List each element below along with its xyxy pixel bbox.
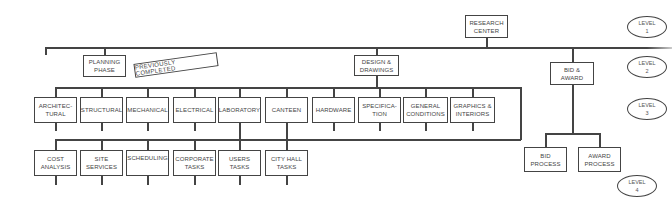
drop [55,139,57,150]
connector-bid [572,47,574,62]
node-award-process: AWARD PROCESS [578,147,621,172]
drop [194,87,196,97]
node-electrical: ELECTRICAL [173,97,216,123]
node-bid-award: BID & AWARD [550,62,594,85]
stub [147,122,149,131]
node-research-center: RESEARCH CENTER [465,15,508,38]
connector-design-down [376,75,378,87]
node-design-drawings: DESIGN & DRAWINGS [354,55,399,76]
stub [194,175,196,185]
drop [147,87,149,97]
level-2-marker: LEVEL 2 [627,56,667,78]
stub [472,122,474,131]
stub [286,122,288,139]
bid-bus [545,133,600,135]
node-corporate-tasks: CORPORATE TASKS [173,150,216,176]
node-site-services: SITE SERVICES [80,150,123,176]
node-hardware: HARDWARE [312,97,355,123]
level-3-marker: LEVEL 3 [627,98,667,120]
stub [101,175,103,185]
connector-design [376,47,378,55]
stub [55,122,57,131]
stub [239,175,241,185]
stub [147,175,149,185]
node-scheduling: SCHEDULING [126,150,169,176]
drop [239,87,241,97]
stub [239,122,241,139]
stub [101,122,103,131]
stub [333,122,335,131]
drop [333,87,335,97]
drop [379,87,381,97]
node-mechanical: MECHANICAL [126,97,169,123]
drop [147,139,149,150]
node-planning-phase: PLANNING PHASE [83,55,126,77]
connector-planning [45,47,47,55]
drop [425,87,427,97]
node-cost-analysis: COST ANALYSIS [34,150,77,176]
stub [55,175,57,185]
stub [286,175,288,185]
drop [194,139,196,150]
level3-right-edge [520,87,522,140]
annotation-previously-completed: PREVIOUSLY COMPLETED [133,52,218,78]
drop [286,87,288,97]
node-structural: STRUCTURAL [80,97,123,123]
connector-planning-box [104,47,106,55]
level1-bus [45,47,672,49]
drop [55,87,57,97]
node-users-tasks: USERS TASKS [218,150,261,176]
node-graphics-interiors: GRAPHICS & INTERIORS [450,97,495,123]
drop [101,139,103,150]
stub [194,122,196,131]
level-4-marker: LEVEL 4 [617,175,657,197]
node-architectural: ARCHITEC- TURAL [34,97,77,123]
level-1-marker: LEVEL 1 [627,16,667,38]
node-laboratory: LABORATORY [218,97,261,123]
drop [101,87,103,97]
node-specification: SPECIFICA- TION [358,97,401,123]
drop [286,139,288,150]
node-bid-process: BID PROCESS [524,147,567,172]
drop [239,139,241,150]
stub [425,122,427,131]
stub [379,122,381,131]
level3-bus [55,87,521,89]
level4-bus [55,139,521,141]
connector-bid-down [572,84,574,134]
drop [545,133,547,147]
node-canteen: CANTEEN [265,97,308,123]
drop [472,87,474,97]
node-general-conditions: GENERAL CONDITIONS [403,97,448,123]
drop [599,133,601,147]
node-city-hall-tasks: CITY HALL TASKS [265,150,308,176]
